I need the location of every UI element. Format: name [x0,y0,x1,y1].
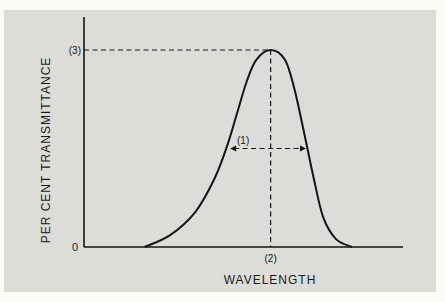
transmittance-curve [145,50,352,247]
x-tick-label-peak-wavelength: (2) [264,253,276,264]
x-axis-label: WAVELENGTH [224,273,317,287]
transmittance-chart: PER CENT TRANSMITTANCE WAVELENGTH 0 (3) … [0,0,445,302]
bandwidth-arrowhead-left [230,146,236,152]
bandwidth-arrowhead-right [300,146,306,152]
y-axis-label: PER CENT TRANSMITTANCE [39,57,53,244]
y-tick-label-peak: (3) [69,45,81,56]
y-tick-label-zero: 0 [72,241,78,253]
bandwidth-annotation-label: (1) [237,135,249,146]
